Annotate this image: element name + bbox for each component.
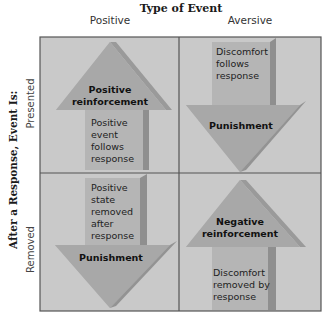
cell-heading-positive-reinforcement: Positive reinforcement (60, 84, 160, 108)
cell-body-presented-positive: Positive event follows response (91, 117, 134, 165)
cell-heading-punishment-top: Punishment (196, 120, 286, 132)
cell-heading-punishment-bottom: Punishment (66, 252, 156, 264)
cell-body-presented-aversive: Discomfort follows response (216, 46, 268, 82)
cell-body-removed-aversive: Discomfort removed by response (213, 267, 270, 303)
cell-heading-negative-reinforcement: Negative reinforcement (190, 216, 290, 240)
contingency-grid (0, 0, 332, 322)
cell-body-removed-positive: Positive state removed after response (91, 182, 134, 242)
